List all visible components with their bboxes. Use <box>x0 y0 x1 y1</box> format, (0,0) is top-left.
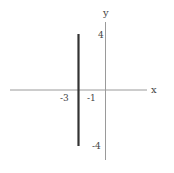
x-tick-label: -1 <box>87 93 96 103</box>
y-tick-label: -4 <box>92 141 101 151</box>
chart: x y -3 -1 4 -4 <box>0 0 174 173</box>
x-axis-label: x <box>151 84 157 95</box>
y-tick-label: 4 <box>98 30 104 40</box>
x-tick-label: -3 <box>60 93 69 103</box>
y-axis-label: y <box>102 7 109 18</box>
